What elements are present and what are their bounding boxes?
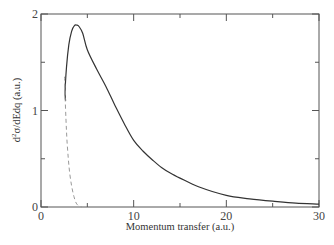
y-tick-label: 0 (32, 200, 38, 214)
data-series (65, 25, 319, 207)
x-tick-label: 0 (38, 209, 44, 223)
y-axis-label: d2σ/dEdq (a.u.) (10, 77, 23, 142)
dashed-curve (65, 77, 82, 207)
chart: 0102030012 Momentum transfer (a.u.) d2σ/… (0, 0, 334, 245)
y-tick-label: 1 (32, 104, 38, 118)
solid-curve (65, 25, 319, 204)
x-axis-label: Momentum transfer (a.u.) (126, 221, 235, 233)
y-tick-label: 2 (32, 7, 38, 21)
tick-labels: 0102030012 (32, 7, 325, 223)
x-tick-label: 30 (313, 209, 325, 223)
